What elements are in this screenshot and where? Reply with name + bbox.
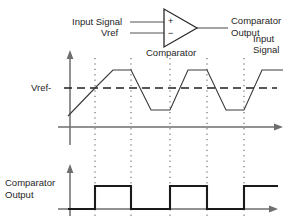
comparator-output-plot: Comparator Output (5, 164, 278, 216)
comparator-figure: + − Input Signal Vref Comparator Output … (0, 0, 288, 222)
input-signal-plot-label-line2: Signal (253, 44, 279, 55)
output-plot-x-axis-arrow (269, 206, 278, 213)
comparator-output-waveform (68, 186, 278, 209)
input-plot-y-axis-arrow (67, 50, 74, 59)
comparator-schematic: + − Input Signal Vref Comparator Output … (72, 9, 281, 58)
output-plot-y-axis-arrow (67, 164, 74, 173)
comparator-plus-sign: + (168, 16, 173, 26)
schematic-vref-label: Vref (101, 27, 118, 38)
schematic-device-label: Comparator (146, 47, 196, 58)
input-signal-waveform (68, 70, 283, 116)
vref-tick-label: Vref- (31, 82, 51, 93)
comparator-minus-sign: − (168, 28, 173, 38)
comparator-output-label-line2: Output (5, 189, 34, 200)
schematic-output-label-line1: Comparator (231, 15, 281, 26)
input-signal-plot-label-line1: Input (253, 33, 274, 44)
comparator-diagram-svg: + − Input Signal Vref Comparator Output … (0, 0, 288, 222)
schematic-input-signal-label: Input Signal (72, 16, 122, 27)
input-plot-x-axis-arrow (274, 124, 283, 131)
comparator-output-label-line1: Comparator (5, 177, 55, 188)
